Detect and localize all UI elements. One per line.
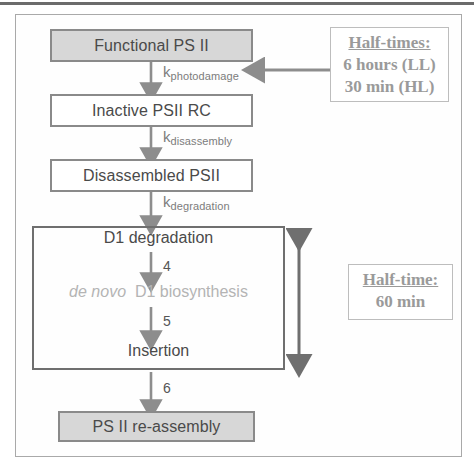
callout-half-times-line1: 6 hours (LL) [331,54,448,76]
label-de-novo-text: de novo [69,283,126,300]
rate-subscript-photodamage: photodamage [171,70,239,82]
label-d1-biosynthesis-text: D1 biosynthesis [135,283,248,300]
callout-half-time-60min: Half-time: 60 min [348,264,453,320]
step-number-6: 6 [163,380,171,396]
callout-half-times-line2: 30 min (HL) [331,76,448,98]
node-disassembled-psii-label: Disassembled PSII [83,167,220,185]
rate-k-symbol: k [163,128,171,145]
node-functional-psii-label: Functional PS II [94,37,209,55]
callout-half-times-title: Half-times: [331,32,448,54]
label-d1-degradation-text: D1 degradation [104,229,213,246]
label-insertion-text: Insertion [128,342,189,359]
callout-half-time-line1: 60 min [349,291,452,313]
rate-subscript-degradation: degradation [171,200,230,212]
rate-label-disassembly: kdisassembly [163,129,232,147]
rate-label-photodamage: kphotodamage [163,64,239,82]
node-inactive-psii-rc: Inactive PSII RC [50,94,253,127]
callout-half-times: Half-times: 6 hours (LL) 30 min (HL) [330,27,449,102]
step-number-4: 4 [163,258,171,274]
label-spacer [126,283,135,300]
figure-canvas: Functional PS II Inactive PSII RC Disass… [0,0,474,472]
node-psii-reassembly-label: PS II re-assembly [93,418,221,436]
label-d1-degradation: D1 degradation [32,229,285,247]
step-number-5: 5 [163,313,171,329]
node-functional-psii: Functional PS II [50,29,253,62]
node-inactive-psii-rc-label: Inactive PSII RC [92,102,211,120]
node-psii-reassembly: PS II re-assembly [58,411,255,442]
rate-k-symbol: k [163,193,171,210]
label-de-novo-d1-biosynthesis: de novo D1 biosynthesis [32,283,285,301]
top-rule-divider [0,2,474,5]
label-insertion: Insertion [32,342,285,360]
node-disassembled-psii: Disassembled PSII [50,159,253,192]
callout-half-time-title: Half-time: [349,269,452,291]
rate-label-degradation: kdegradation [163,194,230,212]
rate-k-symbol: k [163,63,171,80]
rate-subscript-disassembly: disassembly [171,135,233,147]
